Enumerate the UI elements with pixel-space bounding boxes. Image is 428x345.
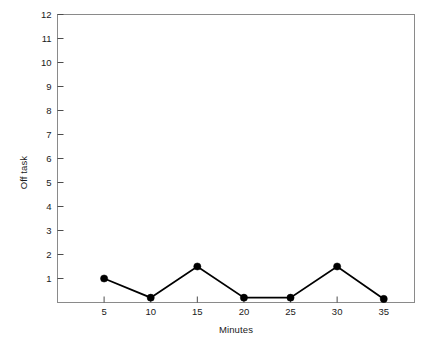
x-tick-label: 25 [285, 306, 296, 317]
y-tick-label: 12 [41, 9, 52, 20]
x-tick-label: 10 [145, 306, 156, 317]
y-tick-label: 9 [46, 81, 51, 92]
y-tick-label: 8 [46, 105, 51, 116]
data-point-marker [101, 275, 108, 282]
y-tick-label: 11 [42, 33, 52, 44]
y-tick-label: 2 [46, 249, 51, 260]
data-point-marker [194, 263, 201, 270]
x-tick-label: 5 [101, 306, 106, 317]
y-tick-label: 7 [46, 129, 51, 140]
plot-area: 123456789101112 5101520253035 [0, 0, 428, 345]
data-point-marker [334, 263, 341, 270]
y-tick-label: 10 [41, 57, 52, 68]
x-tick-label: 30 [332, 306, 343, 317]
data-point-marker [240, 294, 247, 301]
x-tick-label: 15 [192, 306, 203, 317]
y-tick-label: 4 [46, 201, 51, 212]
plot-frame [58, 15, 415, 303]
data-point-marker [287, 294, 294, 301]
y-tick-label: 5 [46, 177, 51, 188]
chart-figure: Off task Minutes 123456789101112 5101520… [0, 0, 428, 345]
data-point-marker [380, 295, 387, 302]
data-point-marker [147, 294, 154, 301]
x-tick-label: 35 [378, 306, 389, 317]
y-tick-label: 6 [46, 153, 51, 164]
y-tick-label: 1 [46, 273, 51, 284]
y-tick-label: 3 [46, 225, 51, 236]
x-tick-label: 20 [239, 306, 250, 317]
